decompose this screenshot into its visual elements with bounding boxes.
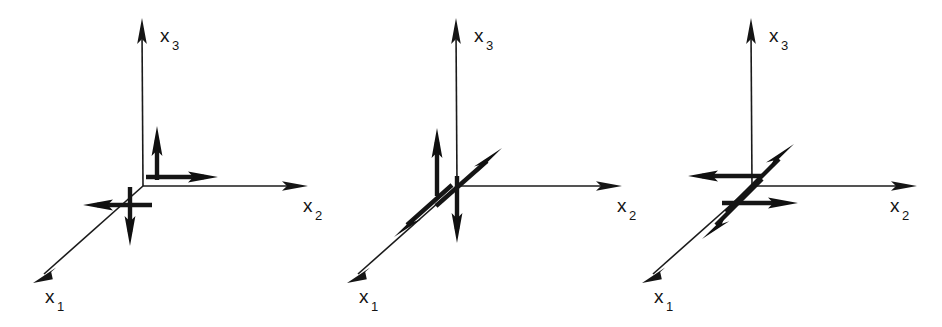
panel-1-axes [33,18,308,283]
axis-label-x2: x [303,195,313,216]
axis-label-x2: x [890,195,900,216]
panel-1-labels: x 3 x 2 x 1 [45,25,322,314]
couple-arrow-ur-head [766,144,794,168]
axis-x3-line [456,30,457,186]
panel-3-couple-b [702,179,798,239]
axis-label-x3: x [769,25,779,46]
panel-2-couple-b [436,148,502,243]
axis-label-x3: x [474,25,484,46]
panel-2: x 3 x 2 x 1 [347,18,636,314]
panel-1-couple-b [83,187,152,246]
axis-x3-line [751,30,752,186]
axis-label-x1: x [45,286,55,307]
axis-label-x1-subscript: 1 [57,299,64,314]
panel-1-couple-a [146,126,218,182]
panel-3-labels: x 3 x 2 x 1 [654,25,909,314]
axis-label-x2-subscript: 2 [315,208,322,223]
axis-x1-arrowhead [347,268,370,284]
axis-label-x2-subscript: 2 [902,208,909,223]
panel-1: x 3 x 2 x 1 [33,18,322,314]
axis-label-x2: x [617,195,627,216]
axis-x3-line [142,30,143,186]
axis-label-x1-subscript: 1 [371,299,378,314]
axis-label-x1: x [654,286,664,307]
axis-label-x3: x [160,25,170,46]
axis-label-x2-subscript: 2 [629,208,636,223]
panel-3: x 3 x 2 x 1 [642,18,917,314]
panel-2-axes [347,18,622,283]
axis-label-x1: x [359,286,369,307]
axis-label-x3-subscript: 3 [486,38,493,53]
axis-x1-arrowhead [33,268,56,284]
axis-label-x1-subscript: 1 [666,299,673,314]
diagram-canvas: x 3 x 2 x 1 [0,0,942,327]
panel-2-labels: x 3 x 2 x 1 [359,25,636,314]
panel-3-axes [642,18,917,283]
axis-label-x3-subscript: 3 [781,38,788,53]
axis-label-x3-subscript: 3 [172,38,179,53]
axis-x1-arrowhead [642,268,665,284]
force-couples-figure: x 3 x 2 x 1 [0,0,942,327]
couple-arrow-ur-shaft [436,161,487,206]
panel-2-couple-a [394,128,452,237]
